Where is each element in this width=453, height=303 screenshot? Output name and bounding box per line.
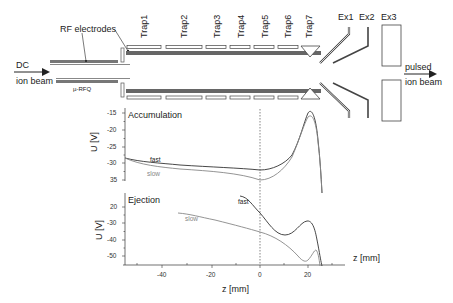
side-xlabel: z [mm] (353, 254, 380, 263)
ex3-label: Ex3 (381, 13, 397, 22)
trap2-label: Trap2 (180, 15, 189, 38)
ex3-electrode-top (382, 25, 401, 66)
ex1-label: Ex1 (338, 13, 354, 22)
trap1-label: Trap1 (140, 15, 149, 38)
top-ylabel: U [V] (90, 132, 99, 152)
xlabel: z [mm] (222, 285, 249, 294)
trap-segments-top (127, 46, 298, 49)
ex2-label: Ex2 (359, 13, 375, 22)
entrance-plate-bottom (121, 83, 124, 97)
rfq-label: µ-RFQ (73, 86, 91, 92)
slow-label-top: slow (147, 171, 160, 178)
top-ytick: 35 (110, 177, 117, 184)
fast-label-top: fast (150, 157, 160, 164)
trap7-label: Trap7 (305, 15, 314, 38)
ion-beam-in-label: ion beam (16, 77, 53, 86)
trap5-label: Trap5 (261, 15, 270, 38)
ejection-slow-curve (178, 213, 320, 266)
bottom-ytick: 20 (110, 204, 117, 211)
ejection-fast-curve (240, 196, 322, 266)
dc-beam-arrow-head-icon (42, 68, 50, 76)
trap-segments-bottom (127, 96, 298, 99)
rfq-electrodes (50, 60, 130, 83)
top-ytick: -15 (107, 110, 116, 117)
bottom-ytick: -50 (107, 253, 116, 260)
accumulation-title: Accumulation (128, 111, 182, 120)
bottom-ylabel: U [V] (95, 220, 104, 240)
rf-pointer-1 (82, 33, 86, 61)
ex3-electrode-bottom (382, 80, 401, 121)
fast-label-bottom: fast (238, 199, 248, 206)
figure-graphics (0, 0, 453, 303)
entrance-plate-top (121, 48, 124, 62)
xtick: 20 (304, 272, 311, 279)
slow-label-bottom: slow (185, 216, 198, 223)
bottom-ytick: -30 (107, 220, 116, 227)
trap3-label: Trap3 (213, 15, 222, 38)
accumulation-plot (122, 108, 322, 193)
trap6-label: Trap6 (284, 15, 293, 38)
xtick: -40 (157, 272, 166, 279)
top-ytick: -30 (107, 160, 116, 167)
ejection-title: Ejection (128, 196, 160, 205)
top-ytick: -25 (107, 144, 116, 151)
bottom-ytick: -40 (107, 237, 116, 244)
top-ytick: -20 (107, 127, 116, 134)
rf-electrodes-label: RF electrodes (60, 25, 116, 34)
xtick: -20 (206, 272, 215, 279)
dc-label: DC (16, 61, 29, 70)
xtick: 0 (258, 272, 262, 279)
trap4-label: Trap4 (237, 15, 246, 38)
rf-rod-bottom (126, 89, 321, 93)
pulsed-label: pulsed (405, 63, 432, 72)
accumulation-fast-curve (125, 111, 322, 193)
ion-beam-out-label: ion beam (405, 78, 442, 87)
rf-rod-top (126, 51, 321, 55)
